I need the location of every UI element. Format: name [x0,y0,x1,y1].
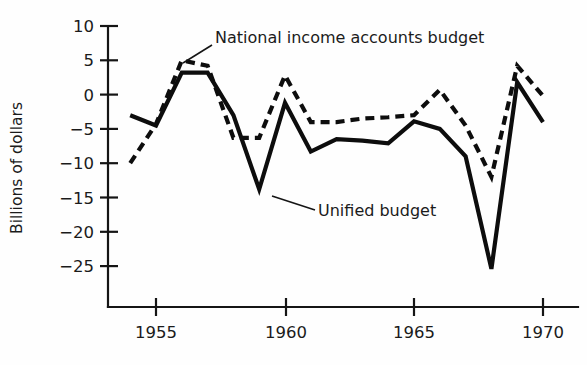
y-tick-label-minus15: −15 [59,189,94,208]
y-tick-label-minus10: −10 [59,154,94,173]
x-tick-label-1955: 1955 [135,323,177,342]
y-tick-label-minus25: −25 [59,257,94,276]
x-tick-label-1965: 1965 [393,323,435,342]
chart-figure: Billions of dollars 10 5 0 −5 −10 −15 −2… [0,0,587,365]
annotation-label-unified-budget: Unified budget [318,201,436,220]
y-tick-label-minus20: −20 [59,223,94,242]
y-tick-label-10: 10 [73,17,94,36]
series-national-income-accounts-budget [130,60,543,177]
series-unified-budget [130,73,543,269]
annotation-leader-unified [272,196,315,210]
y-tick-label-5: 5 [84,51,95,70]
x-tick-label-1970: 1970 [522,323,564,342]
y-axis-label: Billions of dollars [8,102,26,234]
y-tick-label-minus5: −5 [70,120,94,139]
line-chart: Billions of dollars 10 5 0 −5 −10 −15 −2… [0,0,587,365]
annotation-label-national-income-accounts-budget: National income accounts budget [215,28,484,47]
annotation-leader-national [183,45,212,63]
x-tick-label-1960: 1960 [265,323,307,342]
y-axis-tick-labels: 10 5 0 −5 −10 −15 −20 −25 [59,17,94,276]
x-axis-tick-labels: 1955 1960 1965 1970 [135,323,564,342]
y-tick-label-0: 0 [84,86,95,105]
